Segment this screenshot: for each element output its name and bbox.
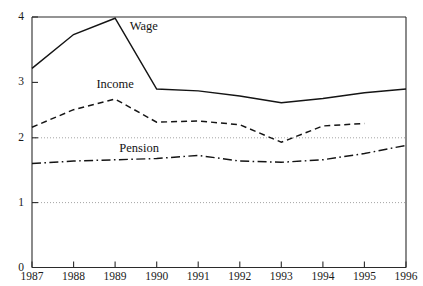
y-tick-label-3: 3: [6, 76, 24, 88]
series-label-income: Income: [96, 78, 133, 91]
gridlines: [32, 138, 406, 203]
series-label-pension: Pension: [119, 142, 159, 155]
x-tick-label-1996: 1996: [380, 271, 423, 283]
line-chart: 4 3 2 1 0 1987 1988 1989 1990 1991 1992 …: [0, 0, 423, 286]
y-tick-label-4: 4: [6, 11, 24, 23]
series-line-pension: [32, 145, 406, 163]
series-label-wage: Wage: [130, 20, 158, 33]
data-series-group: [32, 18, 406, 163]
series-line-income: [32, 99, 364, 142]
y-axis-ticks: [32, 17, 38, 203]
y-tick-label-2: 2: [6, 132, 24, 144]
chart-plot-area: [0, 0, 423, 286]
series-line-wage: [32, 18, 406, 103]
axes: [32, 17, 406, 268]
y-tick-label-1: 1: [6, 197, 24, 209]
x-axis-ticks: [32, 262, 406, 268]
